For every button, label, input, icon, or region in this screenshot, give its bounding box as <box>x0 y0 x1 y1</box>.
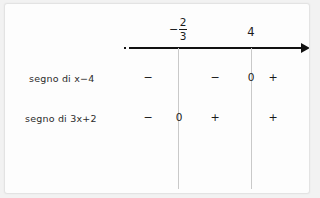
figure-sheet: − 2 3 4 segno di x−4 segno di 3x+2 − − 0… <box>4 3 310 194</box>
row-label-x-minus-4: segno di x−4 <box>29 73 94 84</box>
fraction-stack: 2 3 <box>179 17 187 41</box>
root-divider-line-b <box>251 48 252 189</box>
scanned-page-frame: − 2 3 4 segno di x−4 segno di 3x+2 − − 0… <box>0 0 320 198</box>
fraction-negative-two-thirds: − 2 3 <box>169 17 187 41</box>
sign-row1-between-roots: − <box>208 72 222 83</box>
row-label-3x-plus-2: segno di 3x+2 <box>25 113 97 124</box>
fraction-minus-sign: − <box>169 24 178 35</box>
root-label-negative-two-thirds: − 2 3 <box>157 17 199 41</box>
sign-row2-before-first-root: − <box>141 112 155 123</box>
axis-leading-ellipsis-icon <box>124 47 136 49</box>
sign-row2-at-first-root: 0 <box>172 112 186 123</box>
root-label-four: 4 <box>231 27 271 39</box>
sign-row2-after-second-root: + <box>266 112 280 123</box>
axis-line <box>131 47 303 49</box>
axis-arrowhead-icon <box>301 43 310 53</box>
sign-row2-between-roots: + <box>208 112 222 123</box>
fraction-numerator: 2 <box>180 17 187 29</box>
fraction-denominator: 3 <box>180 30 187 42</box>
sign-row1-before-first-root: − <box>141 72 155 83</box>
sign-row1-after-second-root: + <box>266 72 280 83</box>
sign-row1-at-second-root: 0 <box>244 72 258 83</box>
